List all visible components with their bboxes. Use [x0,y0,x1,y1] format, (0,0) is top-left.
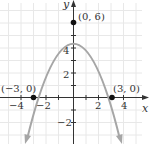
y-tick-label-neg2: −2 [57,117,72,128]
vertex-label: (0, 6) [78,11,105,22]
y-axis-arrow-icon [71,0,76,7]
left-intercept-label: (−3, 0) [1,83,36,94]
x-axis-arrow-icon [142,95,149,100]
right-intercept-point [109,95,115,101]
y-tick-label-4: 4 [63,45,69,56]
x-tick-label-neg2: −2 [36,100,51,111]
right-intercept-label: (3, 0) [113,83,140,94]
vertex-point [71,20,77,26]
x-tick-label-neg4: −4 [9,100,24,111]
y-tick-label-2: 2 [63,69,69,80]
x-axis-label: x [142,102,149,115]
y-axis-label: y [62,0,70,11]
x-tick-label-4: 4 [121,100,127,111]
x-tick-label-2: 2 [95,100,101,111]
parabola-graph: y x (0, 6) (−3, 0) (3, 0) −4 −2 2 4 4 2 … [0,0,150,144]
